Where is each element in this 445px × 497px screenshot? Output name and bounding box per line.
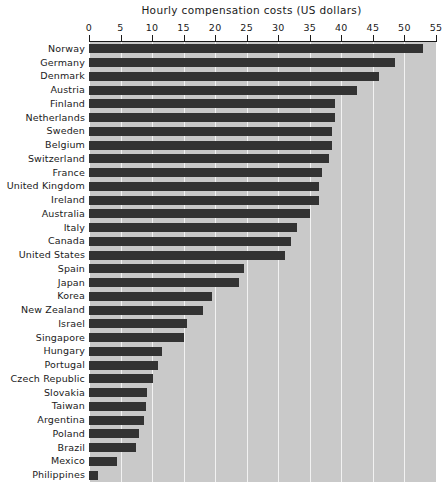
category-label: Austria (0, 85, 85, 95)
bar (89, 223, 297, 232)
category-label: Germany (0, 58, 85, 68)
category-label: Poland (0, 429, 85, 439)
category-label: Czech Republic (0, 374, 85, 384)
bar (89, 292, 212, 301)
category-label: Singapore (0, 333, 85, 343)
x-tick-label: 45 (367, 22, 380, 33)
bar (89, 319, 187, 328)
category-label: Spain (0, 264, 85, 274)
bar (89, 58, 395, 67)
x-tick-label: 50 (398, 22, 411, 33)
category-label: United Kingdom (0, 181, 85, 191)
category-label: Belgium (0, 140, 85, 150)
bar (89, 457, 117, 466)
bar (89, 347, 162, 356)
category-label: Slovakia (0, 388, 85, 398)
bar (89, 306, 203, 315)
bar (89, 443, 136, 452)
bar (89, 333, 184, 342)
bar (89, 99, 335, 108)
bar (89, 237, 291, 246)
category-label: Japan (0, 278, 85, 288)
x-tick-label: 0 (86, 22, 92, 33)
bar (89, 471, 98, 480)
gridline (404, 42, 405, 482)
bar (89, 141, 332, 150)
bar (89, 182, 319, 191)
bar (89, 278, 239, 287)
plot-area (89, 42, 436, 482)
bar (89, 264, 244, 273)
x-tick-label: 55 (430, 22, 443, 33)
category-label: Philippines (0, 470, 85, 480)
bar (89, 44, 423, 53)
category-label: Norway (0, 44, 85, 54)
category-label: Denmark (0, 71, 85, 81)
x-tick-label: 20 (209, 22, 222, 33)
category-label: Mexico (0, 456, 85, 466)
gridline (341, 42, 342, 482)
bar (89, 416, 144, 425)
category-label: Canada (0, 236, 85, 246)
category-label: Korea (0, 291, 85, 301)
x-tick-label: 25 (240, 22, 253, 33)
category-label: Ireland (0, 195, 85, 205)
x-tick-label: 15 (177, 22, 190, 33)
bar (89, 388, 147, 397)
bar (89, 374, 153, 383)
category-label: Israel (0, 319, 85, 329)
gridline (373, 42, 374, 482)
bar (89, 168, 322, 177)
x-tick-label: 35 (303, 22, 316, 33)
bar (89, 251, 285, 260)
category-label: Portugal (0, 360, 85, 370)
bar (89, 429, 139, 438)
bar (89, 209, 310, 218)
category-label: Brazil (0, 443, 85, 453)
category-label: New Zealand (0, 305, 85, 315)
category-label: Switzerland (0, 154, 85, 164)
category-label: Sweden (0, 126, 85, 136)
figure-caption (4, 489, 445, 497)
category-axis-labels: NorwayGermanyDenmarkAustriaFinlandNether… (0, 42, 85, 482)
x-tick-label: 5 (117, 22, 123, 33)
category-label: Taiwan (0, 401, 85, 411)
category-label: Hungary (0, 346, 85, 356)
x-tick-label: 30 (272, 22, 285, 33)
category-label: Finland (0, 99, 85, 109)
bar (89, 361, 158, 370)
bar (89, 127, 332, 136)
x-axis: 0510152025303540455055 (89, 22, 436, 42)
category-label: Australia (0, 209, 85, 219)
category-label: Italy (0, 223, 85, 233)
bar (89, 196, 319, 205)
category-label: Argentina (0, 415, 85, 425)
bar (89, 402, 146, 411)
bar (89, 86, 357, 95)
x-tick-label: 40 (335, 22, 348, 33)
category-label: France (0, 168, 85, 178)
bar (89, 154, 329, 163)
bar (89, 72, 379, 81)
category-label: United States (0, 250, 85, 260)
x-tick-label: 10 (146, 22, 159, 33)
figure: Hourly compensation costs (US dollars) 0… (0, 0, 445, 497)
category-label: Netherlands (0, 113, 85, 123)
chart-title: Hourly compensation costs (US dollars) (0, 4, 445, 16)
bar (89, 113, 335, 122)
